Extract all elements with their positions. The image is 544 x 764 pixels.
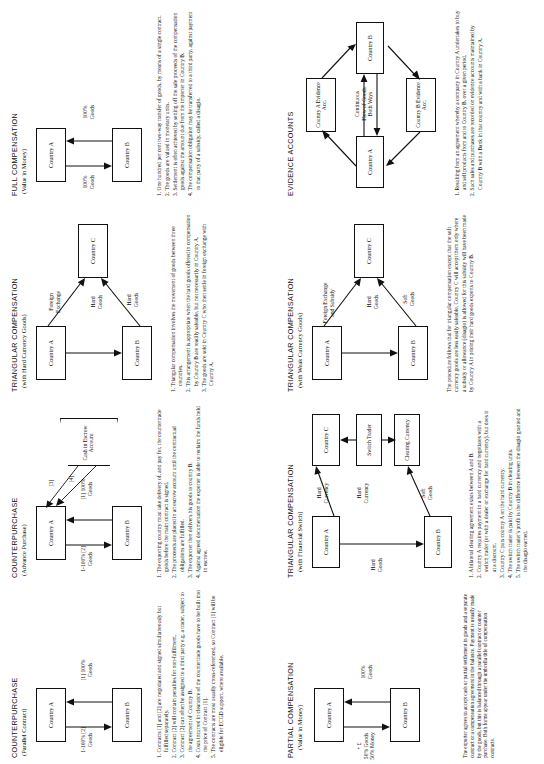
panel-subtitle: (Value in Money) (296, 705, 304, 750)
note-item: 4. Against agreed documentation the expo… (195, 406, 210, 578)
note-item: 3. Country C puts country A on the hard … (499, 406, 506, 578)
note-item: 3. The exporter then delivers his goods … (187, 406, 194, 578)
panel-full-compensation: FULL COMPENSATION (Value in Money) Count… (10, 6, 268, 196)
flow-label-a-to-b: [1] 100% Goods (80, 468, 93, 510)
panel-evidence-accounts: EVIDENCE ACCOUNTS Country A Country B Co… (286, 6, 536, 196)
flow-label-soft-goods: Soft Goods (402, 280, 415, 318)
flow-label-a-to-b: [1] 100% Goods (80, 648, 93, 692)
note-item: 4. The compensation obligation may be tr… (187, 10, 202, 196)
flow-label-continuous-goods: Continuous Flow of Goods Both Ways (354, 76, 374, 132)
note-item: 3. Contract [2] can often be assigned to… (179, 588, 194, 758)
note-item: 2. This arrangement is appropriate when … (185, 210, 200, 392)
panel-triangular-weak-currency: TRIANGULAR COMPENSATION (with Weak Curre… (286, 206, 536, 392)
panel-triangular-hard-currency: TRIANGULAR COMPENSATION (with Hard Curre… (10, 206, 268, 392)
note-item: 2. Such sales and purchases are recorded… (469, 10, 484, 196)
flow-label-b-to-a: 1-100% [2] Goods (80, 538, 93, 580)
panel-notes: 1. One hundred per cent two-way transfer… (156, 10, 203, 196)
panel-triangular-financial-switch: TRIANGULAR COMPENSATION (with Financial … (286, 402, 536, 578)
diagram-stage: Country A Country B [1] 100% Goods 1-100… (34, 586, 146, 758)
note-item: 2. Contract [2] will contain penalties f… (171, 588, 178, 758)
node-cash-escrow-label: Cash in Escrow Account (82, 420, 95, 466)
flow-label-soft-goods: Soft Goods (420, 474, 433, 512)
panel-notes: 1. Contracts [1] and [2] are negotiated … (156, 588, 226, 758)
diagram-stage: Country A Country B 100% Goods 100% Good… (34, 6, 146, 196)
panel-title: TRIANGULAR COMPENSATION (10, 278, 19, 392)
note-item: 1. Triangular compensation involves the … (170, 210, 185, 392)
note-item: 2. Country A requires payment in a hard … (476, 406, 498, 578)
flow-label-a-to-b: 100% Goods (360, 654, 373, 690)
panel-subtitle: (Parallel Contract) (20, 709, 28, 756)
note-item: 5. The switch trader's profit is the dif… (515, 406, 530, 578)
diagram-stage: Country A Country B Country A Evidence A… (302, 6, 442, 196)
flow-label-hard-currency-mid: Hard Currency (356, 472, 369, 514)
note-item: 3. Settlement is often achieved by setti… (172, 10, 187, 196)
panel-subtitle: (Value in Money) (20, 149, 28, 194)
note-item: 2. The proceeds are placed in an escrow … (171, 406, 186, 578)
note-item: 3. The goods are sold in Country C who t… (201, 210, 216, 392)
rotated-page-container: COUNTERPURCHASE (Parallel Contract) Coun… (0, 0, 544, 764)
diagram-stage: Country A Country B Country C Hard Goods… (310, 206, 436, 392)
note-item: 1. One hundred per cent two-way transfer… (156, 10, 163, 196)
panel-notes: 1. Resulting from an agreement whereby a… (454, 10, 485, 196)
diagram-stage: Country A Country B Country C Switch Tra… (310, 402, 460, 578)
flow-label-fx-and-subsidy: Foreign Exchange and Subsidy (322, 276, 335, 330)
note-item: 5. The contracts are most usually cross-… (210, 588, 225, 758)
flow-label-hard-goods-a-b: Hard Goods (366, 282, 379, 322)
note-item: 1. Contracts [1] and [2] are negotiated … (156, 588, 171, 758)
note-item: 4. The switch trader is paid by Country … (507, 406, 514, 578)
panel-notes: 1. A bilateral clearing agreement exists… (468, 406, 530, 578)
panel-title: FULL COMPENSATION (10, 113, 19, 196)
panel-counterpurchase-advance: COUNTERPURCHASE (Advance Purchase) Count… (10, 402, 268, 578)
diagram-stage: Country A Country B 100% Goods + £ 50% G… (312, 586, 424, 758)
panel-title: PARTIAL COMPENSATION (286, 662, 295, 758)
panel-notes: The procedure follows that for triangula… (446, 214, 476, 392)
flow-label-hard-goods: Hard Goods (370, 546, 383, 584)
note-item: 1. Resulting from an agreement whereby a… (454, 10, 469, 196)
flow-arrows (310, 402, 460, 578)
note-item: 1. The exporting country must take deliv… (156, 406, 171, 578)
diagram-stage: Country A Country B Country C Hard Goods… (34, 206, 160, 392)
flow-label-b-to-a: + £ 50% Goods 50% Money (356, 726, 376, 764)
panel-subtitle: (with Financial Switch) (296, 512, 304, 572)
panel-partial-compensation: PARTIAL COMPENSATION (Value in Money) Co… (286, 586, 536, 758)
panel-title: COUNTERPURCHASE (10, 497, 19, 578)
sheet-footnote: The exporter agrees to accept cash or pa… (462, 592, 496, 758)
note-item: 4. Costs incurred in clearance of the co… (195, 588, 210, 758)
flow-label-hard-goods-a-b: Hard Goods (90, 282, 103, 322)
flow-label-b-to-a: 100% Goods (82, 164, 95, 200)
note-item: 2. The goods are valued in monetary unit… (164, 10, 171, 196)
flow-label-foreign-exchange: Foreign Exchange (48, 280, 61, 324)
flow-label-a-to-b: 100% Goods (82, 94, 95, 130)
flow-label-hard-currency-top: Hard Currency (316, 472, 329, 514)
diagram-sheet: COUNTERPURCHASE (Parallel Contract) Coun… (0, 0, 544, 764)
panel-notes: 1. Triangular compensation involves the … (170, 210, 216, 392)
panel-title: TRIANGULAR COMPENSATION (286, 278, 295, 392)
panel-title: TRIANGULAR COMPENSATION (286, 464, 295, 578)
panel-subtitle: (Advance Purchase) (20, 524, 28, 576)
flow-label-b-to-a: 1-100% [2] Goods (80, 720, 93, 760)
panel-counterpurchase-parallel: COUNTERPURCHASE (Parallel Contract) Coun… (10, 586, 268, 758)
panel-title: EVIDENCE ACCOUNTS (286, 111, 295, 196)
flow-label-hard-goods-b-c: Hard Goods (126, 280, 139, 320)
note-item: 1. A bilateral clearing agreement exists… (468, 406, 475, 578)
panel-notes: 1. The exporting country must take deliv… (156, 406, 210, 578)
diagram-stage: Country A Country B Cash in Escrow Accou… (34, 402, 146, 578)
flow-label-escrow-step-4: [4] (68, 472, 75, 486)
flow-label-escrow-step-3: [3] (48, 476, 55, 490)
note-item: The procedure follows that for triangula… (446, 214, 476, 392)
panel-subtitle: (with Hard Currency Goods) (20, 314, 28, 388)
panel-title: COUNTERPURCHASE (10, 677, 19, 758)
panel-subtitle: (with Weak Currency Goods) (296, 313, 304, 388)
